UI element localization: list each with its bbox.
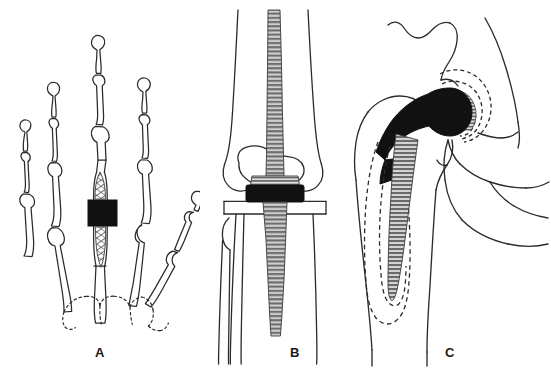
panel-label-b: B xyxy=(275,345,315,360)
panel-hip-implant xyxy=(330,0,551,374)
panel-label-c: C xyxy=(430,345,470,360)
implant-femoral-stem-knee xyxy=(266,10,284,176)
panel-hand-implant xyxy=(0,0,200,374)
implant-black-spacer-hand xyxy=(88,200,117,226)
hip-skeleton-outline xyxy=(355,18,550,366)
hand-skeleton-outline xyxy=(20,36,200,331)
panel-knee-implant xyxy=(200,0,350,374)
figure-root: A B C Joint arthroplasty implants Three-… xyxy=(0,0,551,374)
implant-tibial-stem-knee xyxy=(263,202,287,336)
implant-black-spacer-knee xyxy=(246,185,304,202)
panel-label-a: A xyxy=(80,345,120,360)
implant-black-head-neck-hip xyxy=(376,88,472,184)
carpal-dotted-outline xyxy=(63,296,169,330)
